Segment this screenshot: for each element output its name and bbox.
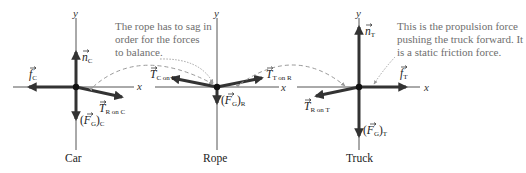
rope-tension-car-arrow <box>172 78 217 87</box>
rope-gravity-label: (FG)R <box>221 94 246 108</box>
truck-y-axis-label: y <box>355 7 361 19</box>
car-tension-label: TR on C <box>99 102 126 116</box>
truck-tension-label: TR on T <box>304 100 330 114</box>
truck-caption: Truck <box>346 152 373 164</box>
truck-normal-label: nT <box>365 25 376 39</box>
truck-x-axis-label: x <box>423 81 429 93</box>
rope-caption: Rope <box>203 152 227 165</box>
car-particle-dot <box>73 84 79 90</box>
rope-tension-truck-label: TT on R <box>266 68 292 82</box>
rope-x-axis-label: x <box>280 81 286 93</box>
truck-gravity-label: (FG)T <box>363 124 388 138</box>
free-body-diagram-figure: y x nC fC TR on C (FG)C Car y x TC on R … <box>0 0 526 173</box>
car-friction-label: fC <box>29 68 37 82</box>
car-caption: Car <box>65 152 82 164</box>
rope-tension-car-label: TC on R <box>150 68 177 82</box>
car-x-axis-label: x <box>136 80 142 92</box>
rope-particle-dot <box>214 84 220 90</box>
truck-annotation: This is the propulsion force pushing the… <box>397 20 526 58</box>
vector-arrow-glyphs <box>30 24 407 126</box>
rope-truck-interaction-link <box>240 65 345 86</box>
truck-particle-dot <box>356 84 362 90</box>
car-normal-label: nC <box>82 51 93 65</box>
car-tension-force-arrow <box>76 87 122 97</box>
diagram-canvas: y x nC fC TR on C (FG)C Car y x TC on R … <box>0 0 526 173</box>
truck-note-pointer <box>374 57 395 84</box>
rope-y-axis-label: y <box>213 7 219 19</box>
car-gravity-label: (FG)C <box>80 114 105 128</box>
rope-tension-truck-arrow <box>217 78 262 87</box>
truck-tension-force-arrow <box>316 87 359 96</box>
truck-friction-label: fT <box>400 67 408 81</box>
car-y-axis-label: y <box>72 7 78 19</box>
rope-annotation: The rope has to sag in order for the for… <box>115 20 215 58</box>
